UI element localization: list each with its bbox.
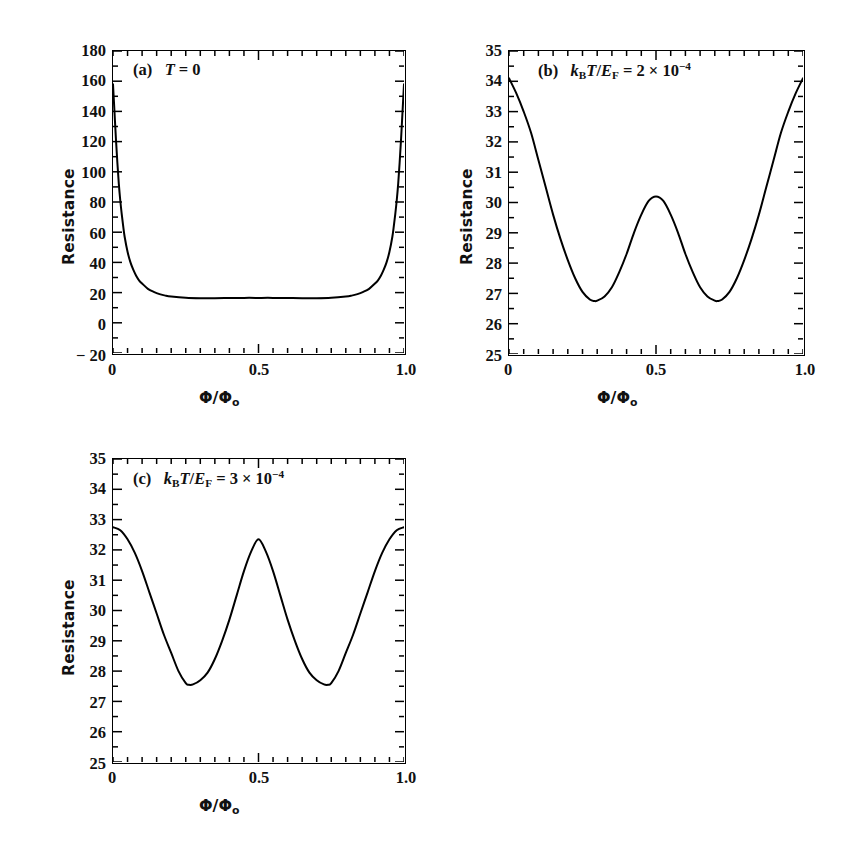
panel-a-ytick-5: 80 xyxy=(48,193,106,213)
panel-c: Resistance 35 34 33 32 31 30 29 28 27 26… xyxy=(0,408,430,852)
panel-b-ytick-7: 28 xyxy=(458,254,502,274)
panel-c-ytick-6: 29 xyxy=(62,632,106,652)
panel-b-svg xyxy=(509,51,803,354)
panel-c-ytick-5: 30 xyxy=(62,601,106,621)
panel-a-ytick-1: 160 xyxy=(48,71,106,91)
panel-b-xtick-0: 0 xyxy=(488,360,528,380)
panel-c-ytick-0: 35 xyxy=(62,449,106,469)
panel-b-ytick-8: 27 xyxy=(458,285,502,305)
panel-a-curve xyxy=(113,84,404,298)
panel-c-plot-frame xyxy=(112,458,406,764)
panel-b-ytick-6: 29 xyxy=(458,224,502,244)
panel-c-ytick-1: 34 xyxy=(62,479,106,499)
panel-c-ytick-3: 32 xyxy=(62,540,106,560)
panel-b-ytick-0: 35 xyxy=(458,41,502,61)
panel-a: Resistance 180 160 140 120 100 80 60 40 … xyxy=(0,0,430,430)
panel-c-x-axis-label: Φ/Φo xyxy=(199,796,240,817)
panel-c-ytick-2: 33 xyxy=(62,510,106,530)
panel-b-ytick-3: 32 xyxy=(458,132,502,152)
panel-b-annotation: (b) kBT/EF = 2 × 10−4 xyxy=(538,60,691,81)
panel-a-ytick-8: 20 xyxy=(48,285,106,305)
panel-b-ytick-9: 26 xyxy=(458,315,502,335)
panel-a-plot-frame xyxy=(112,50,406,355)
panel-b-xtick-1: 0.5 xyxy=(636,360,676,380)
panel-c-ytick-9: 26 xyxy=(62,723,106,743)
panel-a-ytick-4: 100 xyxy=(48,163,106,183)
panel-a-svg xyxy=(113,51,404,353)
panel-b-xtick-2: 1.0 xyxy=(785,360,825,380)
panel-c-ytick-8: 27 xyxy=(62,693,106,713)
panel-a-ytick-9: 0 xyxy=(48,315,106,335)
panel-b-ytick-4: 31 xyxy=(458,163,502,183)
panel-a-xtick-1: 0.5 xyxy=(239,360,279,380)
figure-container: Resistance 180 160 140 120 100 80 60 40 … xyxy=(0,0,866,852)
panel-c-xtick-1: 0.5 xyxy=(239,768,279,788)
panel-b-ytick-1: 34 xyxy=(458,71,502,91)
panel-b-plot-frame xyxy=(508,50,805,356)
panel-b-ticks xyxy=(509,51,803,354)
panel-b-ytick-2: 33 xyxy=(458,102,502,122)
panel-a-ticks xyxy=(113,51,404,353)
panel-a-ytick-2: 140 xyxy=(48,102,106,122)
panel-a-xtick-0: 0 xyxy=(92,360,132,380)
panel-a-annotation: (a) T = 0 xyxy=(133,60,201,80)
panel-c-ytick-7: 28 xyxy=(62,662,106,682)
panel-b-x-axis-label: Φ/Φo xyxy=(597,388,638,409)
panel-a-x-axis-label: Φ/Φo xyxy=(199,388,240,409)
panel-c-annotation: (c) kBT/EF = 3 × 10−4 xyxy=(133,468,284,489)
panel-c-svg xyxy=(113,459,404,762)
panel-a-ytick-6: 60 xyxy=(48,224,106,244)
panel-b-ytick-5: 30 xyxy=(458,193,502,213)
panel-a-ytick-0: 180 xyxy=(48,41,106,61)
panel-b: Resistance 35 34 33 32 31 30 29 28 27 26… xyxy=(396,0,866,430)
panel-c-curve xyxy=(113,527,404,685)
panel-a-ytick-7: 40 xyxy=(48,254,106,274)
panel-c-xtick-0: 0 xyxy=(92,768,132,788)
panel-a-ytick-3: 120 xyxy=(48,132,106,152)
panel-c-ytick-4: 31 xyxy=(62,571,106,591)
panel-c-xtick-2: 1.0 xyxy=(386,768,426,788)
panel-b-curve xyxy=(509,78,803,301)
